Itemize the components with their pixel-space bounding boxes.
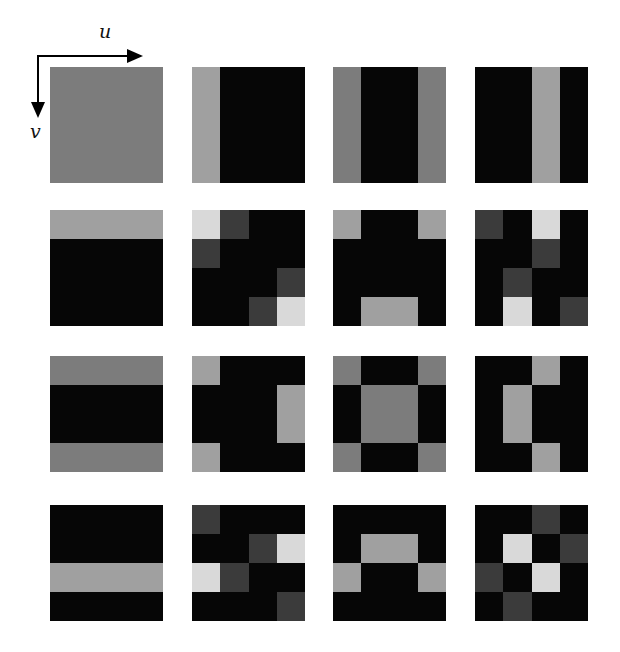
tile-cell [78,414,106,443]
tile-cell [135,67,163,96]
tile-cell [192,67,220,96]
tile-cell [475,534,503,563]
tile-cell [277,592,305,621]
tile-cell [50,414,78,443]
tile-cell [135,268,163,297]
tile-cell [560,268,588,297]
tile-cell [390,67,418,96]
tile-cell [249,443,277,472]
tile-cell [418,210,446,239]
tile-cell [107,96,135,125]
tile-cell [107,125,135,154]
tile-cell [560,356,588,385]
tile-cell [390,239,418,268]
tile-cell [333,96,361,125]
tile-cell [78,210,106,239]
tile-cell [50,125,78,154]
tile-cell [50,297,78,326]
tile-cell [503,96,531,125]
tile-cell [220,239,248,268]
tile-cell [249,67,277,96]
basis-tile-v0-u2 [333,67,446,183]
tile-cell [361,297,389,326]
tile-cell [277,67,305,96]
tile-cell [107,443,135,472]
tile-cell [390,385,418,414]
tile-cell [135,356,163,385]
tile-cell [532,210,560,239]
tile-cell [475,268,503,297]
tile-cell [503,443,531,472]
tile-cell [418,96,446,125]
tile-cell [475,96,503,125]
tile-cell [390,505,418,534]
tile-cell [333,268,361,297]
tile-cell [107,534,135,563]
tile-cell [277,268,305,297]
tile-cell [277,534,305,563]
tile-cell [475,356,503,385]
basis-tile-v0-u0 [50,67,163,183]
tile-cell [249,356,277,385]
tile-cell [249,505,277,534]
tile-cell [107,563,135,592]
tile-cell [560,67,588,96]
tile-cell [220,125,248,154]
tile-cell [277,443,305,472]
tile-cell [361,592,389,621]
tile-cell [78,592,106,621]
tile-cell [78,534,106,563]
tile-cell [249,210,277,239]
tile-cell [78,356,106,385]
tile-cell [249,96,277,125]
tile-cell [78,239,106,268]
tile-cell [390,154,418,183]
tile-cell [50,239,78,268]
tile-cell [390,534,418,563]
tile-cell [532,563,560,592]
tile-cell [532,297,560,326]
basis-tile-v1-u0 [50,210,163,326]
tile-cell [220,414,248,443]
tile-cell [220,356,248,385]
basis-tile-v2-u1 [192,356,305,472]
tile-cell [135,210,163,239]
tile-cell [192,534,220,563]
tile-cell [333,210,361,239]
tile-cell [532,443,560,472]
tile-cell [361,443,389,472]
tile-cell [192,563,220,592]
tile-cell [277,239,305,268]
tile-cell [418,563,446,592]
tile-cell [503,268,531,297]
tile-cell [78,96,106,125]
tile-cell [78,563,106,592]
tile-cell [475,505,503,534]
v-axis-label: v [30,120,41,142]
tile-cell [390,96,418,125]
tile-cell [50,268,78,297]
tile-cell [418,414,446,443]
tile-cell [503,154,531,183]
tile-cell [107,67,135,96]
tile-cell [277,297,305,326]
tile-cell [333,534,361,563]
tile-cell [361,414,389,443]
tile-cell [361,268,389,297]
tile-cell [390,268,418,297]
tile-cell [475,125,503,154]
tile-cell [532,592,560,621]
tile-cell [135,297,163,326]
tile-cell [390,210,418,239]
tile-cell [475,154,503,183]
tile-cell [418,356,446,385]
tile-cell [418,592,446,621]
tile-cell [78,297,106,326]
tile-cell [220,443,248,472]
basis-tile-v2-u2 [333,356,446,472]
tile-cell [418,268,446,297]
tile-cell [361,505,389,534]
tile-cell [192,356,220,385]
tile-cell [361,67,389,96]
tile-cell [361,96,389,125]
